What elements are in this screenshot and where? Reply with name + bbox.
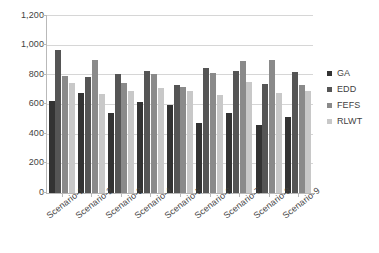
bar-fefs	[180, 87, 186, 193]
x-label-slot: Scenario-2	[77, 193, 107, 253]
legend: GAEDDFEFSRLWT	[327, 65, 379, 129]
bar-ga	[285, 117, 291, 193]
bar-fefs	[210, 73, 216, 193]
x-label-slot: Scenario-6	[195, 193, 225, 253]
legend-label: RLWT	[337, 117, 362, 126]
bar-fefs	[269, 60, 275, 193]
bar-edd	[262, 84, 268, 193]
y-tick-label: 800	[2, 70, 44, 79]
bar-fefs	[92, 60, 98, 194]
y-axis: 1,200 1,000 800 600 400 200 0	[0, 0, 44, 253]
legend-swatch-icon	[327, 119, 332, 124]
bar-chart: 1,200 1,000 800 600 400 200 0 Scenario-1…	[0, 0, 379, 253]
legend-label: EDD	[337, 85, 356, 94]
bar-groups	[47, 15, 313, 193]
bar-edd	[85, 77, 91, 193]
bar-fefs	[62, 76, 68, 193]
x-label-slot: Scenario-7	[224, 193, 254, 253]
bar-rlwt	[128, 91, 134, 193]
bar-ga	[108, 113, 114, 193]
bar-group	[284, 15, 314, 193]
legend-label: FEFS	[337, 101, 360, 110]
bar-rlwt	[99, 94, 105, 193]
bar-edd	[174, 85, 180, 193]
bar-rlwt	[305, 91, 311, 193]
y-tick-label: 1,200	[2, 11, 44, 20]
legend-swatch-icon	[327, 87, 332, 92]
bar-ga	[49, 101, 55, 193]
bar-fefs	[299, 85, 305, 193]
bar-ga	[226, 113, 232, 193]
x-label-slot: Scenario-4	[136, 193, 166, 253]
bar-rlwt	[217, 95, 223, 193]
y-tick-label: 400	[2, 129, 44, 138]
bar-fefs	[121, 83, 127, 194]
bar-edd	[144, 71, 150, 193]
bar-group	[224, 15, 254, 193]
y-tick-label: 1,000	[2, 40, 44, 49]
x-label-slot: Scenario-5	[165, 193, 195, 253]
legend-item-ga[interactable]: GA	[327, 65, 379, 81]
bar-group	[254, 15, 284, 193]
bar-group	[165, 15, 195, 193]
plot-area	[47, 15, 313, 193]
bar-ga	[137, 102, 143, 193]
bar-edd	[233, 71, 239, 193]
x-axis-labels: Scenario-1Scenario-2Scenario-3Scenario-4…	[47, 193, 313, 253]
bar-edd	[203, 68, 209, 193]
bar-rlwt	[187, 91, 193, 193]
bar-group	[77, 15, 107, 193]
bar-group	[47, 15, 77, 193]
bar-edd	[55, 50, 61, 193]
y-tick-label: 0	[2, 188, 44, 197]
legend-swatch-icon	[327, 103, 332, 108]
bar-rlwt	[158, 88, 164, 193]
legend-item-rlwt[interactable]: RLWT	[327, 113, 379, 129]
bar-ga	[256, 125, 262, 193]
bar-fefs	[151, 74, 157, 193]
legend-item-edd[interactable]: EDD	[327, 81, 379, 97]
x-label-slot: Scenario-3	[106, 193, 136, 253]
bar-rlwt	[246, 82, 252, 193]
bar-ga	[78, 93, 84, 193]
bar-group	[106, 15, 136, 193]
bar-edd	[115, 74, 121, 193]
x-label-slot: Scenario-1	[47, 193, 77, 253]
bar-ga	[196, 123, 202, 193]
bar-rlwt	[276, 93, 282, 193]
x-label-slot: Scenario-9	[284, 193, 314, 253]
bar-fefs	[240, 61, 246, 193]
bar-ga	[167, 105, 173, 193]
y-tick-label: 200	[2, 158, 44, 167]
x-label-slot: Scenario-8	[254, 193, 284, 253]
bar-group	[136, 15, 166, 193]
legend-item-fefs[interactable]: FEFS	[327, 97, 379, 113]
legend-swatch-icon	[327, 71, 332, 76]
y-tick-label: 600	[2, 99, 44, 108]
bar-rlwt	[69, 83, 75, 194]
bar-edd	[292, 72, 298, 193]
bar-group	[195, 15, 225, 193]
legend-label: GA	[337, 69, 350, 78]
